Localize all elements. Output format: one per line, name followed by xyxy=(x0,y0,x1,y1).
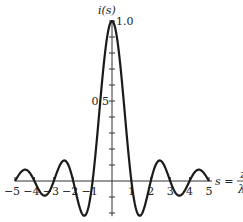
y-tick-label: 1.0 xyxy=(116,15,134,28)
sinc-chart: −5−4−3−2−112345 0.51.0 i(s) s = z λ xyxy=(0,0,243,222)
x-tick-label: 5 xyxy=(206,185,213,198)
x-label-numerator: z xyxy=(239,168,243,181)
x-tick-label: −5 xyxy=(4,185,20,198)
y-axis-label: i(s) xyxy=(98,4,116,17)
x-label-lhs: s = xyxy=(215,175,233,188)
x-axis-label: s = z λ xyxy=(215,168,243,196)
x-label-denominator: λ xyxy=(237,183,243,196)
